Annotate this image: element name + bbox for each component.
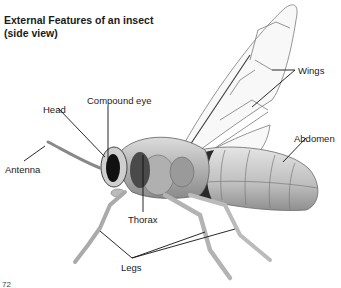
label-legs: Legs: [121, 262, 142, 273]
antenna-shape: [48, 142, 100, 168]
page-number: 72: [2, 280, 11, 288]
label-antenna: Antenna: [5, 164, 40, 175]
label-compound-eye: Compound eye: [87, 95, 151, 106]
insect-illustration: [0, 0, 341, 288]
head-shape: [101, 147, 127, 197]
thorax-shape: [120, 137, 209, 198]
label-abdomen: Abdomen: [294, 133, 335, 144]
label-thorax: Thorax: [128, 214, 158, 225]
label-head: Head: [43, 104, 66, 115]
label-wings: Wings: [298, 65, 324, 76]
